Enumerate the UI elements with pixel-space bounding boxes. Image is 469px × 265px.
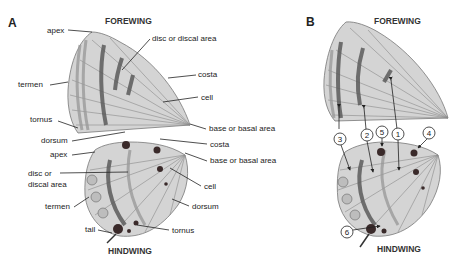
label-hw-apex: apex [50, 150, 67, 159]
label-hw-disc-line2: discal area [28, 180, 67, 189]
panel-b-forewing-title: FOREWING [374, 16, 421, 26]
label-fw-cell: cell [201, 93, 213, 102]
label-fw-tornus: tornus [30, 115, 52, 124]
label-hw-costa: costa [210, 140, 230, 149]
label-fw-base: base or basal area [209, 124, 276, 133]
label-hw-dorsum: dorsum [192, 202, 219, 211]
svg-text:6: 6 [345, 228, 350, 237]
label-fw-dorsum: dorsum [41, 136, 68, 145]
svg-text:2: 2 [365, 131, 370, 140]
label-hw-cell: cell [204, 182, 216, 191]
panel-a: A FOREWING HINDWING apex disc or discal … [8, 16, 277, 256]
label-fw-disc: disc or discal area [152, 34, 217, 43]
label-fw-costa: costa [198, 70, 218, 79]
svg-text:3: 3 [338, 135, 343, 144]
panel-b: B FOREWING HINDWING [306, 15, 448, 254]
panel-a-forewing-title: FOREWING [105, 16, 152, 26]
forewing-a-illustration [68, 32, 190, 133]
panel-b-hindwing-title: HINDWING [377, 244, 421, 254]
label-fw-apex: apex [47, 26, 64, 35]
forewing-b-illustration [324, 22, 448, 121]
svg-text:5: 5 [380, 128, 385, 137]
label-hw-tail: tail [85, 225, 95, 234]
label-hw-tornus: tornus [172, 226, 194, 235]
panel-b-letter: B [306, 15, 315, 29]
svg-text:1: 1 [396, 130, 401, 139]
marker-4: 4 [418, 127, 435, 148]
label-hw-termen: termen [45, 202, 70, 211]
label-hw-disc-line1: disc or [28, 169, 52, 178]
label-hw-base: base or basal area [210, 156, 277, 165]
panel-a-letter: A [8, 16, 17, 30]
svg-text:4: 4 [427, 129, 432, 138]
label-fw-termen: termen [18, 80, 43, 89]
panel-a-hindwing-title: HINDWING [108, 246, 152, 256]
butterfly-wing-diagram: A FOREWING HINDWING apex disc or discal … [0, 0, 469, 265]
